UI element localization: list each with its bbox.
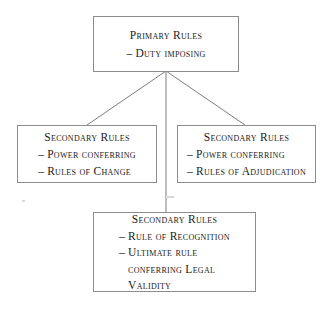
- node-title: Secondary Rules: [44, 129, 129, 145]
- bullet-dash: –: [187, 163, 196, 179]
- scan-speck: [166, 196, 174, 198]
- node-body: – Rule of Recognition – Ultimate rule co…: [119, 228, 230, 293]
- scan-speck: [22, 200, 25, 202]
- node-line-text: Duty imposing: [135, 45, 205, 61]
- node-line-text: Power conferring: [47, 146, 136, 162]
- node-line-text: Rule of Recognition: [128, 228, 230, 244]
- node-line-text: Rules of Adjudication: [196, 163, 306, 179]
- node-line: – Rules of Change: [38, 163, 131, 179]
- node-line: – Power conferring: [187, 146, 285, 162]
- node-body: – Power conferring – Rules of Adjudicati…: [187, 146, 306, 179]
- node-primary-rules[interactable]: Primary Rules – Duty imposing: [93, 16, 239, 72]
- bullet-dash: –: [38, 146, 47, 162]
- node-body: – Power conferring – Rules of Change: [38, 146, 136, 179]
- node-line-text: Validity: [128, 277, 171, 293]
- node-line: Validity: [119, 277, 171, 293]
- node-line: – Power conferring: [38, 146, 136, 162]
- node-line: – Rules of Adjudication: [187, 163, 306, 179]
- node-title: Primary Rules: [130, 27, 202, 43]
- node-secondary-rules-recognition[interactable]: Secondary Rules – Rule of Recognition – …: [93, 212, 256, 292]
- connector-primary-to-right: [166, 71, 245, 125]
- bullet-dash: –: [119, 244, 128, 260]
- node-line: – Duty imposing: [126, 45, 205, 61]
- diagram-canvas: Primary Rules – Duty imposing Secondary …: [0, 0, 330, 310]
- node-secondary-rules-adjudication[interactable]: Secondary Rules – Power conferring – Rul…: [177, 125, 316, 183]
- node-line-text: Power conferring: [196, 146, 285, 162]
- node-line: – Rule of Recognition: [119, 228, 230, 244]
- node-body: – Duty imposing: [126, 45, 205, 61]
- bullet-dash: –: [38, 163, 47, 179]
- node-line: conferring Legal: [119, 261, 215, 277]
- bullet-dash: –: [119, 228, 128, 244]
- bullet-dash: –: [187, 146, 196, 162]
- node-secondary-rules-change[interactable]: Secondary Rules – Power conferring – Rul…: [17, 125, 157, 183]
- node-line: – Ultimate rule: [119, 244, 197, 260]
- node-title: Secondary Rules: [204, 129, 289, 145]
- connector-primary-to-left: [87, 71, 166, 125]
- node-title: Secondary Rules: [132, 211, 217, 227]
- bullet-dash: –: [126, 45, 135, 61]
- node-line-text: conferring Legal: [128, 261, 215, 277]
- node-line-text: Ultimate rule: [128, 244, 197, 260]
- node-line-text: Rules of Change: [47, 163, 131, 179]
